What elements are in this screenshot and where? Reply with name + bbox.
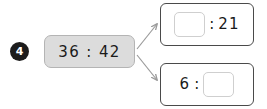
target-top-row: : 21 — [174, 12, 240, 37]
answer-blank-top[interactable] — [174, 12, 205, 37]
arrow-to-top-target — [137, 24, 157, 49]
target-box-top: : 21 — [160, 3, 254, 46]
worksheet-canvas: 4 36 : 42 : 21 6 : — [0, 0, 267, 109]
arrow-to-bottom-target — [137, 55, 157, 80]
target-bottom-separator: : — [192, 77, 201, 92]
target-top-separator: : — [207, 17, 216, 32]
target-bottom-row: 6 : — [180, 72, 235, 97]
target-bottom-known-value: 6 — [180, 77, 191, 92]
answer-blank-bottom[interactable] — [203, 72, 234, 97]
target-top-known-value: 21 — [218, 17, 240, 32]
step-number-badge: 4 — [10, 42, 29, 61]
source-expression-box: 36 : 42 — [44, 35, 135, 68]
target-box-bottom: 6 : — [160, 63, 254, 106]
source-expression-text: 36 : 42 — [58, 43, 121, 61]
